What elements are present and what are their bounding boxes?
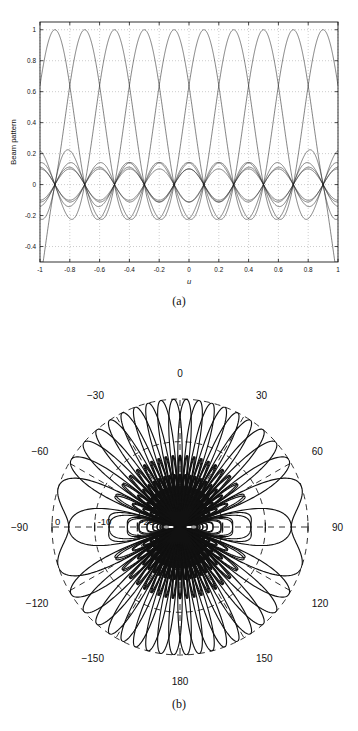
radial-tick-label: -20 <box>140 516 154 527</box>
x-tick-label: 0.8 <box>304 266 313 273</box>
radial-tick-label: 0 <box>55 516 60 527</box>
y-tick-label: 0.4 <box>27 119 36 126</box>
x-tick-label: 0.4 <box>244 266 253 273</box>
polar-angle-label: 0 <box>177 368 183 379</box>
y-tick-label: 0.2 <box>27 150 36 157</box>
polar-angle-label: 60 <box>312 446 324 457</box>
panel-b-polar-beampattern: 0-10-200306090120150180−150−120−90−60−30 <box>0 315 358 731</box>
y-tick-label: -0.2 <box>25 212 36 219</box>
caption-a: (a) <box>0 294 358 309</box>
x-tick-label: -0.4 <box>124 266 135 273</box>
x-tick-label: -0.8 <box>64 266 75 273</box>
polar-plot-svg: 0-10-200306090120150180−150−120−90−60−30 <box>0 315 358 731</box>
x-tick-label: 1 <box>336 266 340 273</box>
x-tick-label: 0 <box>187 266 191 273</box>
caption-b: (b) <box>0 697 358 712</box>
x-tick-label: -0.2 <box>154 266 165 273</box>
cartesian-plot-svg: -1-0.8-0.6-0.4-0.200.20.40.60.81-0.4-0.2… <box>0 0 358 315</box>
panel-a-cartesian-beampattern: -1-0.8-0.6-0.4-0.200.20.40.60.81-0.4-0.2… <box>0 0 358 315</box>
polar-angle-label: 90 <box>332 522 344 533</box>
y-tick-label: 0 <box>32 181 36 188</box>
x-tick-label: 0.2 <box>214 266 223 273</box>
polar-angle-label: −120 <box>26 598 49 609</box>
polar-angle-label: −150 <box>81 653 104 664</box>
polar-angle-label: 180 <box>172 676 189 687</box>
radial-tick-label: -10 <box>98 516 112 527</box>
y-tick-label: 0.8 <box>27 57 36 64</box>
polar-angle-label: 30 <box>256 390 268 401</box>
x-tick-label: -0.6 <box>94 266 105 273</box>
x-axis-label: u <box>187 277 192 286</box>
polar-angle-label: 120 <box>312 598 329 609</box>
y-tick-label: -0.4 <box>25 243 36 250</box>
x-tick-label: 0.6 <box>274 266 283 273</box>
polar-angle-label: −90 <box>11 522 28 533</box>
polar-angle-label: 150 <box>256 653 273 664</box>
polar-angle-label: −30 <box>87 390 104 401</box>
y-axis-label: Beam pattern <box>9 119 18 165</box>
polar-angle-label: −60 <box>31 446 48 457</box>
y-tick-label: 1 <box>32 26 36 33</box>
x-tick-label: -1 <box>37 266 43 273</box>
y-tick-label: 0.6 <box>27 88 36 95</box>
